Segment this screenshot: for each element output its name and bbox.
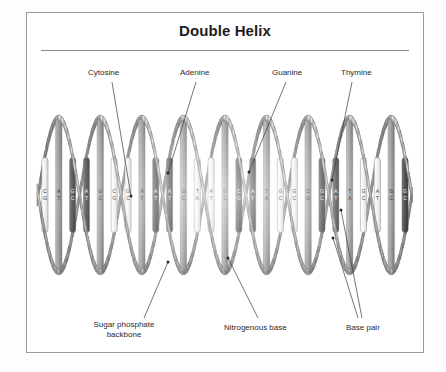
- double-helix-figure: Double Helix: [0, 0, 446, 372]
- label-nitrogenous-base: Nitrogenous base: [224, 323, 287, 333]
- label-adenine: Adenine: [180, 68, 209, 78]
- dna-helix-illustration: ATATATATATGCGCGCCGTATAGCGCATATGCGCCGATGC…: [0, 0, 446, 372]
- label-base-pair: Base pair: [346, 323, 380, 333]
- soft-haze-overlay: [28, 102, 422, 288]
- label-sugar-line1: Sugar phosphate: [94, 320, 155, 329]
- label-guanine: Guanine: [272, 68, 302, 78]
- helix-root: ATATATATATGCGCGCCGTATAGCGCATATGCGCCGATGC…: [28, 102, 422, 288]
- label-thymine: Thymine: [341, 68, 372, 78]
- label-sugar-line2: backbone: [107, 330, 142, 339]
- label-cytosine: Cytosine: [88, 68, 119, 78]
- label-sugar-phosphate-backbone: Sugar phosphate backbone: [86, 320, 162, 340]
